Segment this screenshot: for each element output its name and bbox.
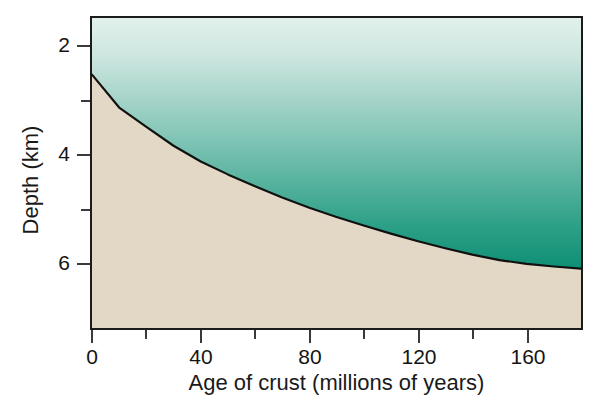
seawater-area <box>92 18 581 328</box>
xtick-label-120: 120 <box>401 345 436 369</box>
xtick-mark-80 <box>309 330 311 343</box>
xtick-mark-0 <box>91 330 93 343</box>
xtick-mark-60 <box>254 330 256 339</box>
ytick-mark-2 <box>77 45 90 47</box>
ytick-mark-6 <box>77 263 90 265</box>
xtick-label-160: 160 <box>510 345 545 369</box>
chart-figure: 2 4 6 Depth (km) 0 40 80 120 160 Age of … <box>0 0 602 411</box>
xtick-mark-100 <box>363 330 365 339</box>
seawater-fill <box>92 18 581 269</box>
xtick-mark-140 <box>472 330 474 339</box>
ytick-mark-3 <box>81 100 90 102</box>
xtick-label-40: 40 <box>189 345 212 369</box>
xtick-mark-40 <box>200 330 202 343</box>
xtick-mark-20 <box>145 330 147 339</box>
ytick-mark-4 <box>77 154 90 156</box>
plot-area <box>90 16 583 330</box>
xtick-label-0: 0 <box>86 345 98 369</box>
xtick-mark-120 <box>418 330 420 343</box>
y-axis-title: Depth (km) <box>14 60 48 300</box>
ytick-label-2: 2 <box>40 33 70 57</box>
x-axis-title: Age of crust (millions of years) <box>90 370 583 396</box>
ytick-mark-5 <box>81 209 90 211</box>
xtick-label-80: 80 <box>298 345 321 369</box>
xtick-mark-160 <box>527 330 529 343</box>
